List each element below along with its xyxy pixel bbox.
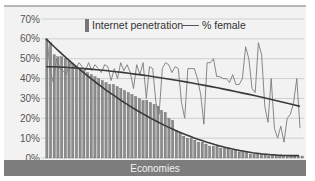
legend-bar-swatch bbox=[85, 19, 89, 32]
bar bbox=[231, 150, 233, 158]
bar bbox=[205, 144, 207, 158]
bar bbox=[164, 112, 166, 158]
bar bbox=[68, 61, 70, 158]
bar bbox=[201, 142, 203, 158]
bar bbox=[168, 118, 170, 158]
bar bbox=[90, 75, 92, 158]
bar bbox=[242, 152, 244, 158]
bar bbox=[275, 156, 277, 158]
bar bbox=[94, 77, 96, 158]
bar bbox=[135, 96, 137, 158]
bar bbox=[212, 146, 214, 158]
y-tick-label: 30% bbox=[20, 93, 40, 104]
legend-line-label: % female bbox=[202, 19, 246, 31]
bar bbox=[216, 146, 218, 158]
bar bbox=[46, 39, 48, 158]
bar bbox=[142, 100, 144, 158]
bar bbox=[57, 57, 59, 158]
bar bbox=[268, 156, 270, 158]
bar bbox=[123, 90, 125, 158]
bar bbox=[194, 140, 196, 158]
legend: Internet penetration % female bbox=[85, 19, 246, 32]
bar bbox=[283, 156, 285, 158]
bar bbox=[109, 85, 111, 158]
y-tick-label: 10% bbox=[20, 133, 40, 144]
bar bbox=[234, 150, 236, 158]
bar bbox=[72, 65, 74, 158]
bar bbox=[220, 148, 222, 158]
bar bbox=[209, 146, 211, 158]
legend-bar-label: Internet penetration bbox=[92, 19, 183, 31]
bar bbox=[179, 132, 181, 158]
y-tick-label: 20% bbox=[20, 113, 40, 124]
bar bbox=[253, 154, 255, 158]
x-axis-label: Economies bbox=[130, 163, 179, 174]
bar bbox=[279, 156, 281, 158]
bar bbox=[79, 69, 81, 158]
bar bbox=[183, 136, 185, 158]
bar bbox=[61, 57, 63, 158]
y-tick-label: 40% bbox=[20, 73, 40, 84]
y-tick-label: 70% bbox=[20, 14, 40, 25]
bar bbox=[186, 138, 188, 158]
bar bbox=[105, 83, 107, 158]
y-tick-label: 50% bbox=[20, 53, 40, 64]
bar bbox=[138, 98, 140, 158]
bar bbox=[172, 120, 174, 158]
y-tick-label: 60% bbox=[20, 33, 40, 44]
bar bbox=[271, 156, 273, 158]
bar bbox=[238, 152, 240, 158]
bar bbox=[301, 156, 303, 158]
bar bbox=[153, 104, 155, 158]
bar bbox=[160, 110, 162, 158]
bar bbox=[49, 43, 51, 158]
bar bbox=[227, 148, 229, 158]
bar bbox=[83, 71, 85, 158]
bar bbox=[86, 73, 88, 158]
chart: 0%10%20%30%40%50%60%70% Internet penetra… bbox=[0, 0, 315, 181]
bar bbox=[131, 94, 133, 158]
bar bbox=[75, 67, 77, 158]
bar bbox=[249, 154, 251, 158]
bar bbox=[149, 102, 151, 158]
bar bbox=[197, 142, 199, 158]
bar bbox=[98, 79, 100, 158]
bar bbox=[175, 130, 177, 158]
bar bbox=[246, 152, 248, 158]
bar bbox=[101, 81, 103, 158]
bar bbox=[146, 100, 148, 158]
bar bbox=[257, 154, 259, 158]
bar bbox=[190, 138, 192, 158]
bar bbox=[223, 148, 225, 158]
bar bbox=[127, 92, 129, 158]
